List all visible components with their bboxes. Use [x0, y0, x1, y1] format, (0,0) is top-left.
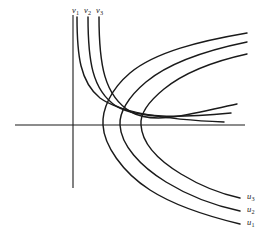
label-u2-subscript: 2	[251, 208, 254, 215]
v-curve-family	[77, 17, 237, 122]
label-v2-subscript: 2	[88, 9, 91, 16]
curve-v2	[88, 17, 231, 116]
label-u1: u1	[247, 218, 254, 227]
curve-u2	[120, 42, 247, 211]
label-u3: u3	[247, 192, 254, 201]
label-v2: v2	[84, 6, 91, 15]
label-v1-subscript: 1	[76, 9, 79, 16]
u-curve-family	[103, 33, 247, 224]
curve-u1	[103, 33, 247, 224]
label-u3-subscript: 3	[251, 195, 254, 202]
label-u2: u2	[247, 205, 254, 214]
label-v1: v1	[72, 6, 79, 15]
coordinate-diagram	[0, 0, 273, 243]
figure-container: v1 v2 v3 u3 u2 u1	[0, 0, 273, 243]
label-u1-subscript: 1	[251, 221, 254, 228]
label-v3: v3	[96, 6, 103, 15]
label-v3-subscript: 3	[100, 9, 103, 16]
